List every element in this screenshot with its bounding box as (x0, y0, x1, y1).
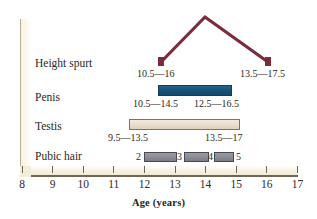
pubic-hair-stage-2-label: 2 (136, 151, 141, 162)
testis-start-range: 9.5—13.5 (108, 132, 148, 143)
x-tick-label-17: 17 (286, 178, 308, 191)
penis-start-range: 10.5—14.5 (133, 98, 178, 109)
x-tick-8 (22, 166, 23, 173)
x-axis-title: Age (years) (0, 197, 317, 208)
x-tick-13 (175, 166, 176, 173)
testis-end-range: 13.5—17 (205, 132, 243, 143)
testis-bar (129, 119, 240, 130)
penis-end-range: 12.5—16.5 (194, 98, 239, 109)
row-label-testis: Testis (35, 120, 62, 133)
x-tick-16 (266, 166, 267, 173)
height-spurt-start-marker (158, 57, 164, 66)
penis-bar (158, 85, 232, 96)
y-axis (20, 19, 31, 177)
puberty-timeline-chart: 8 9 10 11 12 13 14 15 16 17 Age (years) … (0, 0, 317, 219)
x-tick-label-15: 15 (225, 178, 247, 191)
pubic-hair-stage-4-label: 4 (208, 151, 213, 162)
x-tick-14 (205, 166, 206, 173)
pubic-hair-stage-3-bar (184, 152, 209, 162)
row-label-pubic-hair: Pubic hair (35, 150, 82, 163)
pubic-hair-stage-2-bar (144, 152, 177, 162)
x-tick-label-10: 10 (72, 178, 94, 191)
x-tick-label-9: 9 (42, 178, 64, 191)
x-tick-label-13: 13 (164, 178, 186, 191)
row-label-penis: Penis (35, 91, 60, 104)
pubic-hair-stage-5-label: 5 (236, 151, 241, 162)
pubic-hair-stage-4-bar (214, 152, 234, 162)
x-tick-12 (144, 166, 145, 173)
row-label-height-spurt: Height spurt (35, 57, 92, 70)
pubic-hair-stage-3-label: 3 (177, 151, 182, 162)
height-spurt-end-marker (265, 57, 271, 66)
x-tick-9 (52, 166, 53, 173)
x-tick-15 (236, 166, 237, 173)
x-tick-10 (83, 166, 84, 173)
x-axis (20, 166, 298, 177)
x-tick-label-8: 8 (11, 178, 33, 191)
height-spurt-start-range: 10.5—16 (137, 68, 175, 79)
x-tick-label-12: 12 (133, 178, 155, 191)
height-spurt-end-range: 13.5—17.5 (240, 68, 285, 79)
x-tick-label-11: 11 (103, 178, 125, 191)
x-tick-11 (113, 166, 114, 173)
x-tick-17 (297, 166, 298, 173)
x-tick-label-16: 16 (256, 178, 278, 191)
x-tick-label-14: 14 (195, 178, 217, 191)
